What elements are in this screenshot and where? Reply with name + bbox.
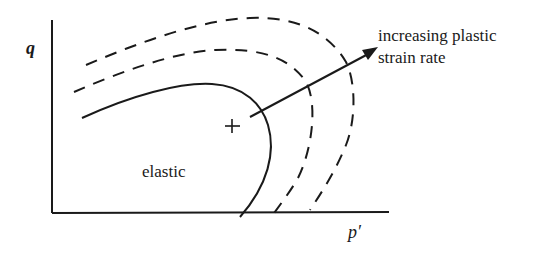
elastic-region-label: elastic bbox=[142, 162, 185, 182]
yield-surface-curve bbox=[82, 84, 271, 217]
strain-rate-arrow bbox=[250, 53, 370, 117]
p-axis-label: p′ bbox=[348, 222, 361, 243]
p-axis bbox=[52, 212, 389, 213]
q-axis-label: q bbox=[26, 38, 35, 59]
arrow-label-line1: increasing plastic bbox=[378, 26, 497, 46]
loading-surface-1-curve bbox=[74, 50, 312, 216]
arrow-label-line2: strain rate bbox=[378, 48, 446, 68]
arrowhead-icon bbox=[362, 47, 378, 60]
